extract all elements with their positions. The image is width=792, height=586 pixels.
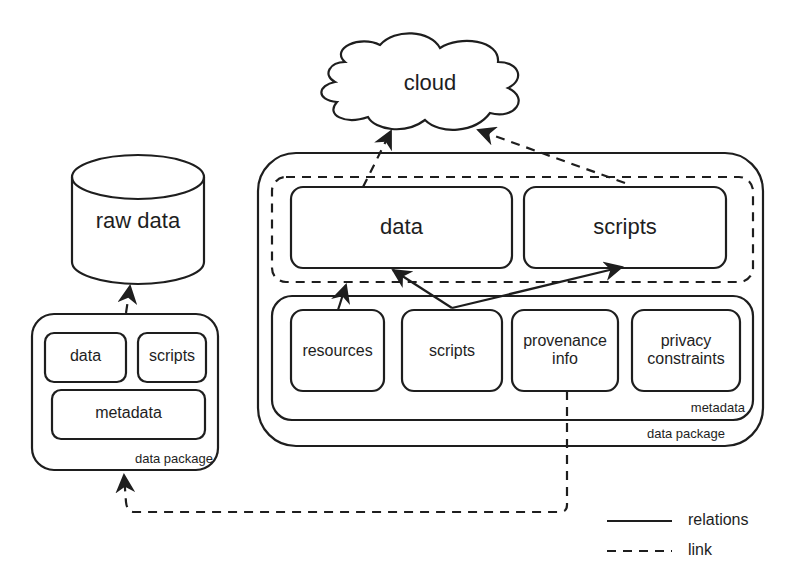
legend-relations-label: relations	[688, 511, 748, 529]
provenance-info-box: provenance info	[514, 332, 616, 369]
legend-link-label: link	[688, 541, 712, 559]
resources-box: resources	[291, 342, 384, 360]
left-scripts-box: scripts	[138, 347, 206, 365]
cloud-label: cloud	[380, 70, 480, 95]
metadata-scripts-box: scripts	[402, 342, 502, 360]
left-data-box: data	[45, 347, 126, 365]
right-package-caption: data package	[620, 427, 725, 442]
left-package-caption: data package	[115, 452, 213, 467]
left-metadata-box: metadata	[52, 404, 205, 422]
right-data-box: data	[291, 214, 512, 239]
metadata-caption: metadata	[640, 401, 745, 416]
right-scripts-box: scripts	[524, 214, 726, 239]
raw-data-label: raw data	[72, 208, 204, 233]
privacy-constraints-box: privacy constraints	[634, 332, 738, 369]
